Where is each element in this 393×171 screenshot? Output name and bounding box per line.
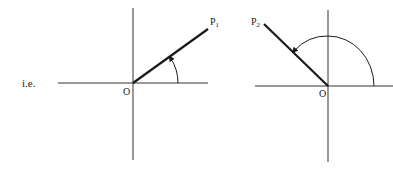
origin-label-1: O — [123, 86, 130, 97]
radius-line-op2 — [264, 24, 328, 86]
point-label-p2: P2 — [251, 16, 261, 29]
point-label-p1: P1 — [210, 16, 220, 29]
diagram-1: O P1 — [58, 8, 220, 160]
radius-line-op1 — [133, 29, 208, 83]
lead-text: i.e. — [22, 77, 36, 89]
angle-arc-2 — [294, 36, 374, 86]
angle-arc-1 — [171, 58, 179, 83]
diagram-2: O P2 — [251, 10, 393, 162]
diagram-canvas: i.e. O P1 O P2 — [0, 0, 393, 171]
origin-label-2: O — [319, 88, 326, 99]
